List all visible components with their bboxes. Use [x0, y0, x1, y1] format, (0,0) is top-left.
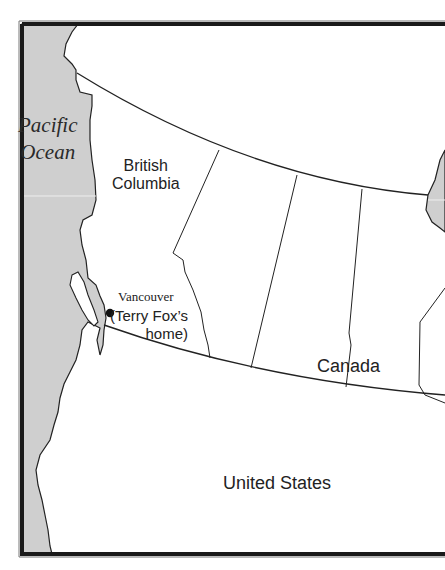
- country-label-us: United States: [223, 473, 331, 494]
- ocean-label: Pacific Ocean: [18, 112, 77, 166]
- ocean-label-line2: Ocean: [18, 139, 77, 166]
- province-label: British Columbia: [112, 157, 180, 193]
- country-label-canada: Canada: [317, 356, 380, 377]
- city-note-line2: home): [110, 325, 188, 343]
- city-note: (Terry Fox’s home): [110, 307, 188, 343]
- province-label-line2: Columbia: [112, 175, 180, 193]
- city-label: Vancouver: [118, 290, 174, 305]
- city-note-line1: (Terry Fox’s: [110, 307, 188, 325]
- province-label-line1: British: [112, 157, 180, 175]
- ocean-label-line1: Pacific: [18, 112, 77, 139]
